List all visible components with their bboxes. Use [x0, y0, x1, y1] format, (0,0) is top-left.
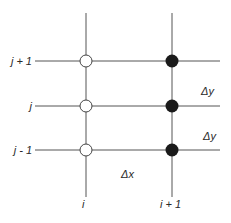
column-label-i: i [82, 198, 84, 210]
filled-node-i-plus-1-j-minus-1 [166, 144, 179, 157]
filled-node-i-plus-1-j [166, 100, 179, 113]
row-label-j: j [0, 100, 32, 112]
open-node-i-j-plus-1 [80, 55, 92, 67]
row-label-j-minus-1: j - 1 [0, 144, 32, 156]
delta-y-label-upper: Δy [201, 85, 214, 97]
delta-x-label: Δx [121, 168, 134, 180]
column-label-i-plus-1: i + 1 [160, 198, 181, 210]
row-label-j-plus-1: j + 1 [0, 55, 32, 67]
grid-diagram [0, 0, 231, 223]
filled-node-i-plus-1-j-plus-1 [166, 55, 179, 68]
open-node-i-j-minus-1 [80, 144, 92, 156]
open-node-i-j [80, 100, 92, 112]
delta-y-label-lower: Δy [203, 130, 216, 142]
